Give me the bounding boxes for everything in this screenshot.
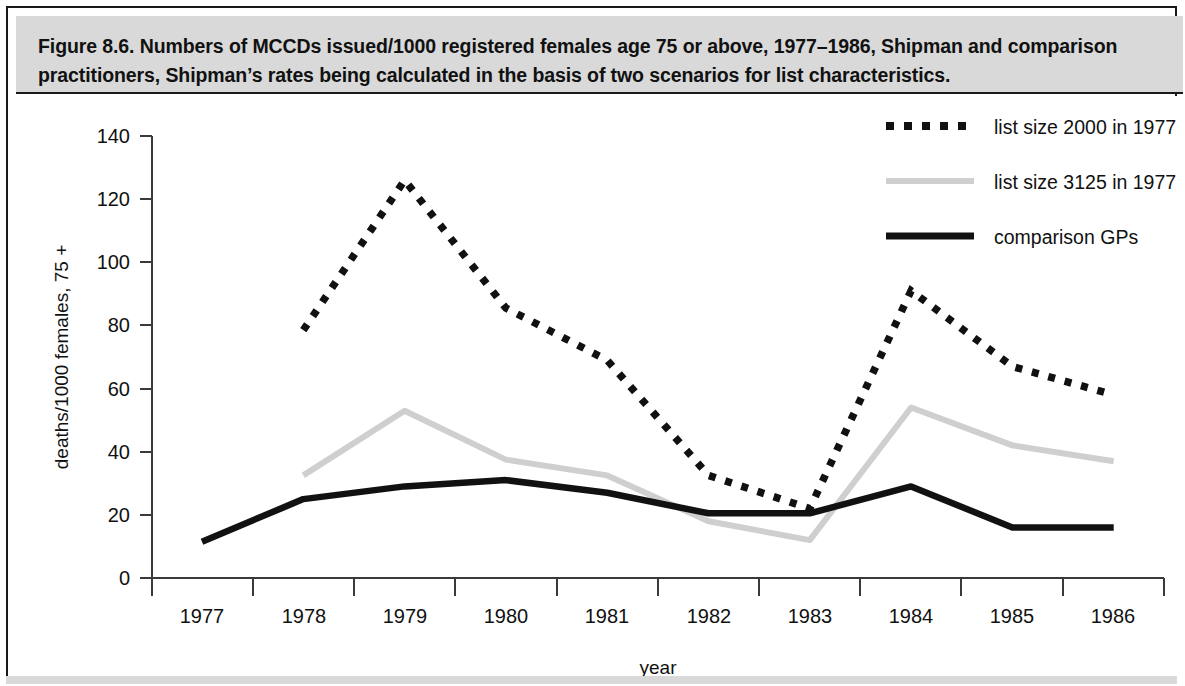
legend-item-0[interactable]: list size 2000 in 1977 — [886, 116, 1176, 138]
y-tick-label-120: 120 — [97, 188, 130, 210]
figure-bottom-strip — [6, 676, 1177, 684]
chart-legend: list size 2000 in 1977 list size 3125 in… — [886, 116, 1176, 248]
x-tick-label-1978: 1978 — [282, 605, 327, 627]
series-line-comparison-gps — [202, 480, 1114, 542]
legend-label-0: list size 2000 in 1977 — [994, 116, 1176, 138]
y-tick-label-100: 100 — [97, 251, 130, 273]
figure-frame: Figure 8.6. Numbers of MCCDs issued/1000… — [6, 6, 1177, 678]
x-tick-label-1984: 1984 — [889, 605, 934, 627]
y-tick-label-60: 60 — [108, 378, 130, 400]
series-line-list-size-2000 — [303, 180, 1113, 508]
x-axis: 1977 1978 1979 1980 1981 1982 1983 1984 … — [152, 578, 1164, 678]
x-axis-tick-labels: 1977 1978 1979 1980 1981 1982 1983 1984 … — [180, 605, 1136, 627]
y-axis-tick-labels: 140 120 100 80 60 40 20 0 — [97, 125, 130, 589]
y-tick-label-20: 20 — [108, 504, 130, 526]
chart-plot-area: 140 120 100 80 60 40 20 0 deaths/1000 fe… — [16, 96, 1183, 684]
x-tick-label-1983: 1983 — [788, 605, 833, 627]
x-tick-label-1985: 1985 — [990, 605, 1035, 627]
figure-caption: Figure 8.6. Numbers of MCCDs issued/1000… — [38, 32, 1173, 90]
y-tick-label-80: 80 — [108, 314, 130, 336]
x-tick-label-1986: 1986 — [1091, 605, 1136, 627]
x-tick-label-1980: 1980 — [484, 605, 529, 627]
x-axis-ticks — [152, 578, 1164, 596]
y-axis: 140 120 100 80 60 40 20 0 deaths/1000 fe… — [51, 125, 152, 589]
y-axis-ticks — [140, 136, 152, 578]
series-group — [202, 180, 1114, 542]
x-tick-label-1981: 1981 — [585, 605, 630, 627]
x-axis-title: year — [640, 657, 678, 678]
figure-caption-band: Figure 8.6. Numbers of MCCDs issued/1000… — [16, 16, 1183, 94]
x-tick-label-1979: 1979 — [383, 605, 428, 627]
y-tick-label-40: 40 — [108, 441, 130, 463]
legend-label-2: comparison GPs — [994, 226, 1138, 248]
legend-label-1: list size 3125 in 1977 — [994, 171, 1176, 193]
y-axis-title: deaths/1000 females, 75 + — [51, 245, 72, 469]
y-tick-label-0: 0 — [119, 567, 130, 589]
x-tick-label-1982: 1982 — [687, 605, 732, 627]
figure-page: Figure 8.6. Numbers of MCCDs issued/1000… — [0, 0, 1185, 686]
x-tick-label-1977: 1977 — [180, 605, 225, 627]
line-chart: 140 120 100 80 60 40 20 0 deaths/1000 fe… — [16, 96, 1183, 684]
legend-item-1[interactable]: list size 3125 in 1977 — [886, 171, 1176, 193]
y-tick-label-140: 140 — [97, 125, 130, 147]
legend-item-2[interactable]: comparison GPs — [886, 226, 1138, 248]
